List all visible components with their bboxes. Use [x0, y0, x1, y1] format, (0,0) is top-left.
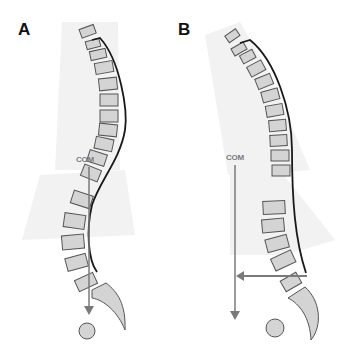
panel-a-sacrum — [92, 283, 125, 330]
panel-a-com-label: COM — [76, 155, 94, 164]
spine-diagram — [0, 0, 339, 360]
panel-b-com-label: COM — [226, 153, 244, 162]
panel-a-shading — [22, 22, 135, 240]
panel-b-femoral-head — [266, 319, 284, 337]
panel-a-femoral-head — [79, 323, 95, 339]
panel-b-sacrum — [288, 287, 318, 340]
